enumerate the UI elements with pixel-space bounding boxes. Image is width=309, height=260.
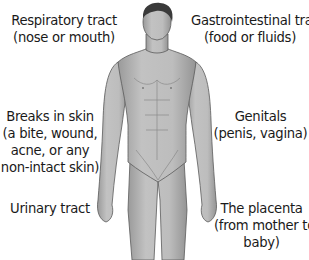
label-placenta-title: The placenta	[214, 200, 309, 217]
label-skin-title: Breaks in skin	[0, 108, 100, 125]
label-placenta-detail-1: (from mother to	[214, 217, 309, 234]
nipple-right	[170, 87, 172, 89]
label-urinary-tract: Urinary tract	[0, 200, 100, 217]
label-placenta: The placenta (from mother to baby)	[214, 200, 309, 251]
label-urinary-title: Urinary tract	[0, 200, 100, 217]
label-genitals-title: Genitals	[212, 108, 309, 125]
label-skin-detail-3: non-intact skin)	[0, 159, 100, 176]
label-skin-detail-2: acne, or any	[0, 142, 100, 159]
label-genitals: Genitals (penis, vagina)	[212, 108, 309, 142]
label-genitals-detail: (penis, vagina)	[212, 125, 309, 142]
label-breaks-in-skin: Breaks in skin (a bite, wound, acne, or …	[0, 108, 100, 176]
human-body-figure	[92, 0, 222, 260]
label-placenta-detail-2: baby)	[214, 234, 309, 251]
label-skin-detail-1: (a bite, wound,	[0, 125, 100, 142]
nipple-left	[142, 87, 144, 89]
